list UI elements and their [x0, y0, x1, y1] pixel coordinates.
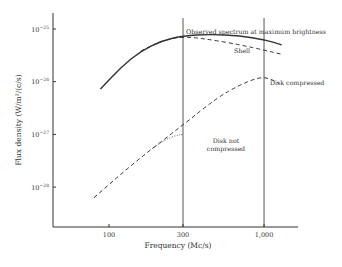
axes — [53, 13, 298, 227]
annotation-label: compressed — [207, 145, 245, 153]
reference-lines — [183, 18, 264, 227]
x-ticks: 1003001,000 — [103, 224, 274, 239]
annotation-label: Shell — [234, 47, 250, 54]
annotation-label: Disk not — [213, 137, 240, 144]
y-axis-label: Flux density (W/m²/(c/s) — [14, 74, 23, 165]
y-ticks: 10−2510−2610−2710−28 — [31, 25, 56, 192]
x-tick-label: 300 — [177, 231, 189, 239]
x-axis-label: Frequency (Mc/s) — [144, 241, 211, 250]
y-tick-label: 10−27 — [31, 130, 49, 139]
series-disk-not-compressed — [152, 134, 183, 148]
y-tick-label: 10−28 — [31, 183, 49, 192]
series — [94, 35, 282, 198]
y-tick-label: 10−25 — [31, 25, 49, 34]
flux-density-chart: 10−2510−2610−2710−28 1003001,000 Observe… — [0, 0, 342, 267]
y-tick-label: 10−26 — [31, 77, 49, 86]
annotation-label: Observed spectrum at maximum brightness — [186, 28, 326, 36]
annotations: Observed spectrum at maximum brightnessS… — [186, 28, 326, 153]
annotation-label: Disk compressed — [270, 79, 324, 87]
series-disk-compressed — [94, 78, 279, 198]
series-observed-spectrum-at-maximum-brightness — [100, 35, 281, 89]
x-tick-label: 1,000 — [255, 231, 274, 239]
x-tick-label: 100 — [103, 231, 115, 239]
